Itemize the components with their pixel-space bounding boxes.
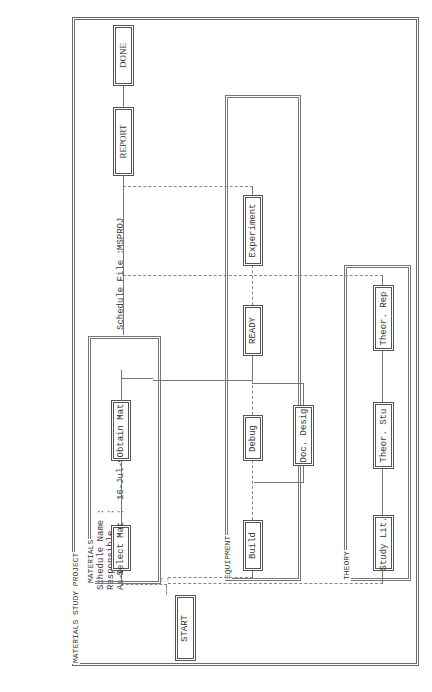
connector-build-docdesig [254, 482, 304, 483]
task-label: READY [249, 317, 258, 344]
connector-start-build [168, 577, 253, 578]
connector-experiment-report [123, 186, 253, 187]
connector-debug-ready [252, 380, 253, 415]
connector-build-debug [252, 460, 253, 520]
task-build[interactable]: Build [243, 520, 263, 571]
connector-start-up [166, 585, 167, 595]
connector-theorrep-out [382, 275, 383, 285]
group-label-theory: THEORY [343, 550, 351, 581]
connector-studylit-theorstu [382, 468, 383, 515]
task-doc-desig[interactable]: Doc. Desig [293, 405, 314, 466]
group-label-materials: MATERIALS [87, 539, 95, 584]
task-experiment[interactable]: Experiment [243, 195, 263, 266]
task-ready[interactable]: READY [243, 305, 263, 356]
task-label: Experiment [249, 203, 258, 257]
task-obtain-mat[interactable]: Obtain Mat [111, 400, 131, 461]
connector-experiment-out [252, 186, 253, 195]
task-debug[interactable]: Debug [243, 415, 263, 461]
task-theor-stu[interactable]: Theor. Stu [373, 402, 394, 469]
group-equipment [225, 95, 301, 581]
group-label-equipment: EQUIPMENT [224, 535, 232, 580]
connector-report-collector [123, 175, 124, 335]
connector-docdesig-out [303, 383, 304, 405]
connector-docdesig-in [303, 465, 304, 483]
connector-start-selectmat [121, 584, 167, 585]
connector-theorrep-report [123, 275, 383, 276]
task-label: Doc. Desig [299, 408, 308, 462]
task-label: Theor. Rep [379, 291, 388, 345]
connector-selectmat-obtainmat [121, 460, 122, 525]
connector-docdesig-ready [252, 383, 304, 384]
task-label: REPORT [119, 125, 128, 159]
connector-ready-in [252, 355, 253, 380]
task-select-mat[interactable]: Select Mat [111, 525, 131, 571]
connector-obtainmat-ready [121, 378, 153, 379]
task-label: Debug [249, 424, 258, 451]
connector-studylit-in [382, 570, 383, 584]
task-label: Build [249, 532, 258, 559]
task-label: START [181, 614, 190, 641]
task-report[interactable]: REPORT [113, 107, 134, 176]
connector-report-done [123, 85, 124, 107]
task-label: Study Lit. [379, 516, 388, 570]
task-label: Obtain Mat [117, 403, 126, 457]
connector-theorstu-theorrep [382, 350, 383, 402]
task-label: DONE [119, 43, 128, 68]
connector-ready-merge [153, 380, 253, 381]
task-label: Select Mat [117, 521, 126, 575]
connector-obtainmat-out [121, 370, 122, 400]
task-study-lit[interactable]: Study Lit. [373, 515, 394, 571]
task-theor-rep[interactable]: Theor. Rep [373, 285, 394, 351]
connector-start-studylit [168, 583, 383, 584]
connector-build-in [252, 570, 253, 578]
project-title: MATERIALS STUDY PROJECT [72, 552, 80, 664]
task-start[interactable]: START [175, 595, 196, 661]
task-done[interactable]: DONE [113, 25, 134, 86]
connector-ready-experiment [252, 265, 253, 305]
task-label: Theor. Stu [379, 408, 388, 462]
arrow-start-studylit: → [164, 578, 171, 582]
